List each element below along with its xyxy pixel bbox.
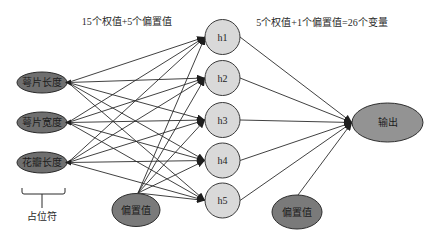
input-node-sepal-width: 萼片宽度 xyxy=(17,112,71,133)
output-bias-node: 偏置值 xyxy=(272,195,322,229)
edge-x3-to-h3 xyxy=(68,120,205,163)
hidden-node-h2: h2 xyxy=(205,61,240,96)
title-input-to-hidden: 15个权值+5个偏置值 xyxy=(82,15,173,27)
edge-x3-to-h4 xyxy=(68,161,205,163)
edge-h4-to-y xyxy=(240,123,352,161)
edge-b1-to-h3 xyxy=(138,120,205,193)
output-node-label: 输出 xyxy=(378,116,398,128)
hidden-node-label: h5 xyxy=(218,195,228,206)
neural-network-diagram: 15个权值+5个偏置值 5个权值+1个偏置值=26个变量 萼片长度 萼片宽度 花… xyxy=(0,0,434,245)
bias-node-label: 偏置值 xyxy=(121,204,151,216)
input-node-sepal-length: 萼片长度 xyxy=(17,72,71,93)
placeholder-label: 占位符 xyxy=(27,210,57,222)
hidden-node-label: h3 xyxy=(218,115,228,126)
edge-h1-to-y xyxy=(240,37,352,123)
title-hidden-to-output: 5个权值+1个偏置值=26个变量 xyxy=(256,16,387,28)
input-node-petal-length: 花瓣长度 xyxy=(17,152,71,173)
edge-h5-to-y xyxy=(240,123,352,201)
hidden-bias-node: 偏置值 xyxy=(112,194,160,227)
edge-h2-to-y xyxy=(240,78,352,123)
input-node-label: 萼片长度 xyxy=(22,76,62,88)
edge-h3-to-y xyxy=(240,120,352,123)
bias-node-label: 偏置值 xyxy=(282,206,312,218)
hidden-node-h5: h5 xyxy=(205,183,240,218)
edge-b1-to-h4 xyxy=(138,161,205,194)
hidden-node-h3: h3 xyxy=(205,103,240,138)
hidden-node-label: h4 xyxy=(218,155,228,166)
hidden-node-label: h1 xyxy=(218,32,228,43)
bracket-icon xyxy=(22,188,65,194)
edge-x1-to-h1 xyxy=(68,37,205,83)
input-node-label: 萼片宽度 xyxy=(22,116,62,128)
placeholder-bracket: 占位符 xyxy=(22,188,65,222)
edge-x1-to-h3 xyxy=(68,83,205,121)
hidden-node-label: h2 xyxy=(218,73,228,84)
hidden-node-h1: h1 xyxy=(205,20,240,55)
edge-b2-to-y xyxy=(298,123,352,196)
edge-x2-to-h1 xyxy=(68,37,205,123)
edge-b1-to-h2 xyxy=(138,78,205,193)
output-node: 输出 xyxy=(352,103,423,142)
input-node-label: 花瓣长度 xyxy=(22,156,62,168)
edge-b1-to-h1 xyxy=(138,37,205,193)
hidden-node-h4: h4 xyxy=(205,143,240,178)
